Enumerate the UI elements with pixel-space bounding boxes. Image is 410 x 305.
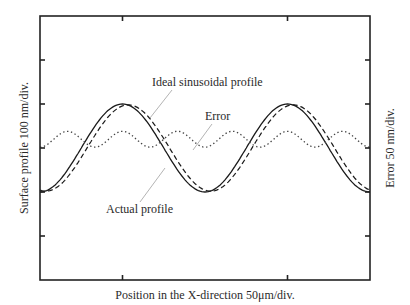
leader-ideal-profile <box>150 90 172 118</box>
y2-axis-label: Error 50 nm/div. <box>383 108 397 188</box>
y-axis-label: Surface profile 100 nm/div. <box>17 82 31 214</box>
chart: Ideal sinusoidal profile Error Actual pr… <box>0 0 410 305</box>
annotation-actual-profile: Actual profile <box>106 202 173 216</box>
annotation-error: Error <box>205 109 230 123</box>
x-axis-label: Position in the X-direction 50μm/div. <box>115 288 294 302</box>
ticks-layer <box>40 16 370 280</box>
annotation-ideal-profile: Ideal sinusoidal profile <box>152 75 263 89</box>
leader-actual-profile <box>140 168 165 202</box>
annotation-leaders <box>140 90 212 202</box>
plot-frame <box>40 16 370 280</box>
leader-error <box>193 124 212 150</box>
